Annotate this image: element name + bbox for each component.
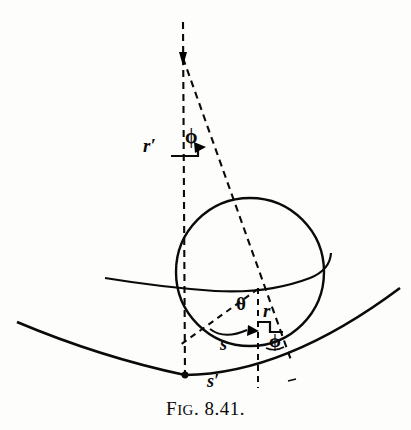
label-s: s [220,335,227,353]
label-r-prime: r′ [143,136,156,155]
figure-diagram [0,0,411,430]
caption-number: . 8.41. [194,398,245,419]
theta-angle-arc [210,329,247,335]
equator-arc [105,253,331,291]
label-theta: θ [236,294,246,313]
figure-container: r′ ϕ θ r ϕ s s′ FIG. 8.41. [0,0,411,430]
caption-smallcaps: IG [177,402,194,418]
baseline-tick-mark [288,379,296,381]
label-phi-upper: ϕ [185,126,197,146]
figure-caption: FIG. 8.41. [0,398,411,420]
label-s-prime: s′ [207,372,219,390]
sphere-outline [176,198,324,346]
slant-radius-dashed-line [183,58,291,360]
caption-lead-letter: F [166,398,177,419]
contact-point-dot [182,372,189,379]
valley-curve [17,288,400,375]
vertical-axis-dashed-line [183,22,185,377]
label-phi-lower: ϕ [269,331,281,350]
label-r: r [263,301,270,320]
